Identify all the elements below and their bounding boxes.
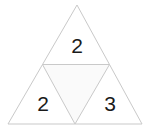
bottom-right-cell-label: 3 <box>104 93 116 114</box>
triangle-diagram <box>0 0 150 134</box>
top-cell-label: 2 <box>71 35 83 56</box>
triangle-figure: 2 2 3 <box>0 0 150 134</box>
bottom-left-cell-label: 2 <box>37 93 49 114</box>
